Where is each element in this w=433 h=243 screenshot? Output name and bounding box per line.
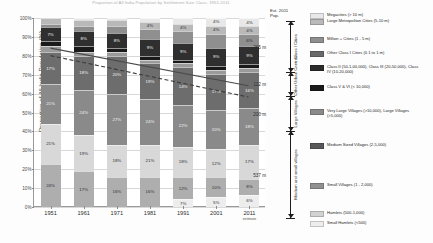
- segment-value-label: 24%: [41, 184, 61, 188]
- bar-segment[interactable]: 16%: [140, 177, 160, 207]
- annotation-header: Est. 2011 Pop.: [270, 8, 288, 18]
- legend-item[interactable]: Class II (50-1,00,000), Class III (20-50…: [310, 64, 418, 74]
- bar-column[interactable]: 8%18%24%19%17%: [74, 18, 94, 206]
- x-tick-mark: [51, 206, 52, 209]
- bar-segment[interactable]: 9%: [140, 39, 160, 56]
- bar-segment[interactable]: 12%: [173, 177, 193, 200]
- bar-column[interactable]: 4%4%9%17%20%12%10%5%: [206, 18, 226, 206]
- legend-label: Very Large Villages (>10,000), Large Vil…: [327, 108, 409, 118]
- segment-value-label: 18%: [173, 160, 193, 164]
- bar-segment[interactable]: 18%: [173, 147, 193, 177]
- bar-column[interactable]: 8%20%27%18%16%: [107, 18, 127, 206]
- bar-segment[interactable]: 24%: [140, 99, 160, 144]
- bar-segment[interactable]: 24%: [74, 90, 94, 135]
- bar-segment[interactable]: 27%: [107, 94, 127, 145]
- bracket-tick: [286, 218, 295, 219]
- legend-item[interactable]: Medium Sized Villages (2-5,000): [310, 142, 386, 149]
- bar-segment[interactable]: [206, 34, 226, 48]
- segment-value-label: 17%: [41, 66, 61, 70]
- bar-segment[interactable]: [140, 29, 160, 38]
- annotation-group-label: Other Urban Centres: [294, 72, 299, 96]
- bar-segment[interactable]: 4%: [239, 18, 259, 26]
- legend-label: Class V & VI (< 10,000): [327, 84, 370, 89]
- bar-column[interactable]: 4%9%14%22%18%12%7%: [173, 18, 193, 206]
- segment-value-label: 9%: [239, 53, 259, 57]
- bar-segment[interactable]: 16%: [107, 177, 127, 207]
- bar-segment[interactable]: 20%: [206, 110, 226, 150]
- x-tick-label: 1971: [111, 210, 123, 216]
- legend-item[interactable]: Small Villages (1 - 2,000): [310, 182, 373, 189]
- segment-value-label: 18%: [74, 71, 94, 75]
- bar-segment[interactable]: [173, 31, 193, 42]
- annotation-group-label: Medium and small villages: [294, 131, 299, 218]
- bar-segment[interactable]: 8%: [239, 179, 259, 195]
- bar-segment[interactable]: 22%: [173, 105, 193, 147]
- bar-segment[interactable]: 4%: [239, 26, 259, 34]
- bar-segment[interactable]: 10%: [206, 177, 226, 197]
- bar-segment[interactable]: 9%: [206, 48, 226, 66]
- bar-segment[interactable]: 14%: [173, 67, 193, 105]
- bar-segment[interactable]: 17%: [41, 52, 61, 84]
- bar-segment[interactable]: 4%: [173, 24, 193, 32]
- y-tick-label: 50%: [22, 110, 31, 115]
- bar-segment[interactable]: 16%: [239, 72, 259, 108]
- segment-value-label: 17%: [239, 160, 259, 164]
- legend-label: Other Class I Cities (0.1 to 1 m): [327, 50, 384, 55]
- bar-segment[interactable]: 19%: [140, 63, 160, 99]
- y-tick-label: 60%: [22, 91, 31, 96]
- segment-value-label: 9%: [206, 55, 226, 59]
- bar-segment[interactable]: [107, 26, 127, 34]
- bar-segment[interactable]: 7%: [41, 27, 61, 40]
- segment-value-label: 8%: [74, 37, 94, 41]
- annotation-population-value: 265 m: [226, 44, 266, 49]
- y-tick-label: 40%: [22, 129, 31, 134]
- annotation-population-value: 200 m: [226, 111, 266, 116]
- bar-segment[interactable]: 21%: [41, 84, 61, 124]
- bar-column[interactable]: 4%9%19%24%21%16%: [140, 18, 160, 206]
- bar-segment[interactable]: 4%: [206, 18, 226, 26]
- bar-segment[interactable]: 4%: [140, 22, 160, 30]
- legend-item[interactable]: Million + Cities (1 - 5 m): [310, 36, 370, 43]
- y-tick-label: 70%: [22, 72, 31, 77]
- legend-item[interactable]: Small Hamlets (<500): [310, 220, 366, 227]
- bar-segment[interactable]: 8%: [74, 31, 94, 46]
- legend-item[interactable]: Other Class I Cities (0.1 to 1 m): [310, 50, 384, 57]
- bar-column[interactable]: 7%17%21%21%24%: [41, 18, 61, 206]
- legend-label: Hamlets (500-1,000): [327, 210, 364, 215]
- segment-value-label: 4%: [239, 28, 259, 32]
- bar-segment[interactable]: 18%: [74, 56, 94, 90]
- segment-value-label: 16%: [239, 89, 259, 93]
- legend-color-swatch: [310, 143, 324, 149]
- segment-value-label: 14%: [173, 84, 193, 88]
- segment-value-label: 17%: [74, 187, 94, 191]
- bar-segment[interactable]: 20%: [107, 56, 127, 94]
- legend-item[interactable]: Class V & VI (< 10,000): [310, 84, 370, 91]
- bar-segment[interactable]: 18%: [107, 145, 127, 177]
- bracket-arrow-up: [288, 131, 294, 135]
- bar-segment[interactable]: 21%: [140, 145, 160, 177]
- bar-segment[interactable]: 8%: [107, 33, 127, 48]
- bar-segment[interactable]: 17%: [74, 171, 94, 207]
- x-tick-mark: [249, 206, 250, 209]
- bar-segment[interactable]: 21%: [41, 124, 61, 164]
- bar-segment[interactable]: 24%: [41, 164, 61, 207]
- legend-label: Small Hamlets (<500): [327, 220, 366, 225]
- bar-segment[interactable]: 17%: [206, 74, 226, 110]
- segment-value-label: 21%: [140, 159, 160, 163]
- segment-value-label: 8%: [239, 185, 259, 189]
- y-tick-label: 80%: [22, 53, 31, 58]
- annotation-population-value: 537 m: [226, 172, 266, 177]
- legend-item[interactable]: Hamlets (500-1,000): [310, 210, 364, 217]
- legend-item[interactable]: Large Metropolitan Cities (5-10 m): [310, 18, 389, 25]
- annotation-population-value: 112 m: [226, 82, 266, 87]
- bar-segment[interactable]: 19%: [74, 135, 94, 171]
- bar-segment[interactable]: 4%: [206, 26, 226, 34]
- annotation-header-line2: Pop.: [270, 13, 279, 18]
- legend-color-swatch: [310, 85, 324, 91]
- bar-segment[interactable]: 12%: [206, 149, 226, 177]
- segment-value-label: 20%: [107, 73, 127, 77]
- annotation-group-label: Large Villages: [294, 96, 299, 131]
- bar-segment[interactable]: 9%: [173, 43, 193, 60]
- segment-value-label: 21%: [41, 102, 61, 106]
- legend-item[interactable]: Very Large Villages (>10,000), Large Vil…: [310, 108, 409, 118]
